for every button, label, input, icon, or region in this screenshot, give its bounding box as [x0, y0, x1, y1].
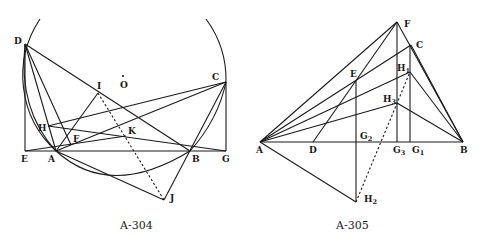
figure-a304: D O I C H F K E A B G J A-304 [14, 19, 230, 232]
label-b: B [192, 154, 200, 164]
line-aj [56, 151, 164, 200]
label-e: E [350, 69, 357, 79]
line-df [313, 22, 397, 142]
label-a: A [47, 154, 56, 164]
line-ah3 [260, 103, 397, 142]
line-bc [411, 45, 463, 142]
label-g3: G3 [393, 145, 406, 157]
label-i: I [97, 81, 101, 91]
label-g1: G1 [412, 145, 424, 157]
label-d: D [14, 36, 22, 46]
label-g: G [222, 154, 230, 164]
label-k: K [128, 126, 137, 136]
label-a: A [255, 145, 264, 155]
label-h2: H2 [364, 194, 377, 206]
arc-a-b [56, 151, 190, 176]
line-ah2 [260, 142, 356, 202]
label-j: J [169, 193, 174, 203]
line-ch [48, 82, 226, 126]
label-o: O [120, 80, 128, 90]
label-h1: H1 [397, 63, 410, 75]
label-h: H [38, 123, 47, 133]
line-jc [164, 82, 226, 200]
center-dot-o [122, 75, 124, 77]
label-f: F [73, 134, 80, 144]
line-af [260, 22, 397, 142]
label-c: C [416, 40, 423, 50]
dashed-ij [98, 93, 164, 200]
label-d: D [309, 145, 317, 155]
label-g2: G2 [360, 131, 372, 143]
label-c: C [212, 72, 219, 82]
label-f: F [404, 19, 411, 29]
label-b: B [460, 145, 468, 155]
geometry-figures: D O I C H F K E A B G J A-304 [0, 0, 481, 241]
line-da [25, 44, 56, 151]
caption-a305: A-305 [335, 219, 369, 232]
label-e: E [21, 154, 28, 164]
line-bh1 [410, 72, 463, 142]
line-ah1 [260, 72, 410, 142]
label-h3: H3 [383, 94, 397, 106]
figure-a305: F C H1 E H3 A D G2 G3 G1 B H2 A-305 [255, 19, 468, 232]
caption-a304: A-304 [119, 219, 153, 232]
